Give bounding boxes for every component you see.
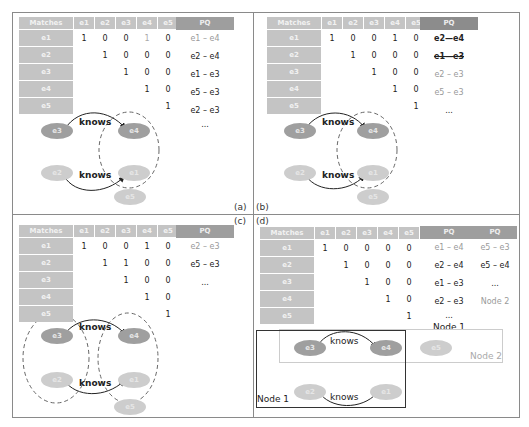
graph-node: e3: [284, 123, 316, 139]
matrix-header: e3: [116, 225, 136, 237]
cell: 1: [137, 289, 157, 305]
row-label: e2: [19, 255, 73, 271]
pq-item: e2 – e4: [420, 257, 478, 275]
pq-item: e5 – e4: [473, 257, 517, 275]
cell: [95, 306, 115, 322]
row-label: e5: [260, 308, 314, 324]
pq-item: e2 – e3: [176, 238, 234, 256]
cell: 0: [357, 240, 377, 256]
matrix-header: Matches: [267, 17, 321, 29]
row-label: e5: [19, 306, 73, 322]
graph-node: e2: [284, 165, 316, 181]
pq-item: e2—e4: [420, 30, 478, 48]
cell: 1: [399, 308, 419, 324]
cell: [364, 98, 384, 114]
pq-item: e1—e3: [420, 48, 478, 66]
cell: 0: [378, 274, 398, 290]
cell: 1: [336, 257, 356, 273]
matrix-row: e2 1 0 0 0: [267, 47, 426, 63]
matrix-header: e3: [357, 227, 377, 239]
matches-matrix: Matches e1 e2 e3 e4 e5 e1 1 0 0 1 0 e2 1…: [18, 224, 179, 323]
cell: 1: [357, 274, 377, 290]
cell: 0: [116, 238, 136, 254]
edge-label: knows: [322, 117, 354, 127]
cell: 0: [158, 238, 178, 254]
matrix-header: e2: [95, 225, 115, 237]
matrix-row: e5 1: [19, 306, 178, 322]
pq-item: ...: [176, 274, 234, 292]
graph-node: e2: [41, 165, 73, 181]
matrix-row: e5 1: [267, 98, 426, 114]
cell: 1: [322, 30, 342, 46]
row-label: e2: [260, 257, 314, 273]
edge-label: knows: [79, 322, 111, 332]
row-label: e3: [19, 272, 73, 288]
cell: [116, 289, 136, 305]
cell: [378, 308, 398, 324]
cell: 0: [343, 30, 363, 46]
cell: [74, 255, 94, 271]
matrix-row: e1 1 0 0 1 0: [267, 30, 426, 46]
node2-label: Node 2: [470, 351, 502, 361]
cell: [364, 81, 384, 97]
cell: [95, 289, 115, 305]
cell: 0: [336, 240, 356, 256]
cell: [357, 291, 377, 307]
matches-matrix: Matches e1 e2 e3 e4 e5 e1 1 0 0 1 0 e2 1…: [266, 16, 427, 115]
pq-item: e1 – e3: [420, 275, 478, 293]
graph-node: e2: [41, 372, 73, 388]
matrix-header: e4: [378, 227, 398, 239]
cell: 0: [399, 274, 419, 290]
cell: 1: [74, 238, 94, 254]
cell: 1: [385, 81, 405, 97]
panel-tag: (c): [234, 216, 246, 226]
matrix-row: e3 1 0 0: [260, 274, 419, 290]
matrix-row: e4 1 0: [267, 81, 426, 97]
matrix-header: e1: [322, 17, 342, 29]
cell: 0: [385, 47, 405, 63]
row-label: e3: [260, 274, 314, 290]
cell: 0: [399, 291, 419, 307]
matrix-header: e3: [364, 17, 384, 29]
cell: 1: [378, 291, 398, 307]
priority-queue-node2: PQ e5 – e3 e5 – e4 ... Node 2: [473, 226, 517, 311]
matrix-header: Matches: [260, 227, 314, 239]
row-label: e4: [19, 289, 73, 305]
cell: [322, 47, 342, 63]
priority-queue-c: PQ e2 – e3 e5 – e3 ...: [176, 225, 234, 292]
panel-b: Matches e1 e2 e3 e4 e5 e1 1 0 0 1 0 e2 1…: [266, 16, 427, 115]
priority-queue-node1: PQ e1 – e4 e2 – e4 e1 – e3 e2 – e3 ... N…: [420, 226, 478, 333]
pq-header: PQ: [420, 17, 478, 30]
cell: 1: [315, 240, 335, 256]
graph-node: e1: [118, 165, 150, 181]
edge-label: knows: [330, 392, 358, 402]
graph-node: e2: [294, 384, 326, 400]
row-label: e4: [267, 81, 321, 97]
cell: 0: [385, 64, 405, 80]
cell: 1: [364, 64, 384, 80]
matrix-row: e1 1 0 0 1 0: [19, 238, 178, 254]
node1-label: Node 1: [257, 394, 289, 404]
pq-caption: Node 2: [473, 293, 517, 311]
matrix-row: e4 1 0: [260, 291, 419, 307]
graph-node: e4: [118, 328, 150, 344]
cell: 0: [399, 257, 419, 273]
panel-tag: (d): [256, 216, 269, 226]
matrix-row: e3 1 0 0: [19, 272, 178, 288]
graph-node: e3: [41, 123, 73, 139]
matrix-header: Matches: [19, 225, 73, 237]
cell: [74, 289, 94, 305]
cell: [343, 64, 363, 80]
cell: 0: [399, 240, 419, 256]
cell: [343, 81, 363, 97]
cell: [385, 98, 405, 114]
panel-d: Matches e1 e2 e3 e4 e5 e1 1 0 0 0 0 e2 1…: [259, 226, 420, 325]
cell: [74, 306, 94, 322]
cell: 1: [116, 272, 136, 288]
pq-item: ...: [420, 102, 478, 120]
matrix-header: e1: [74, 225, 94, 237]
edge-label: knows: [79, 117, 111, 127]
matrix-header: e5: [158, 225, 178, 237]
matrix-header: e2: [336, 227, 356, 239]
cell: [315, 291, 335, 307]
